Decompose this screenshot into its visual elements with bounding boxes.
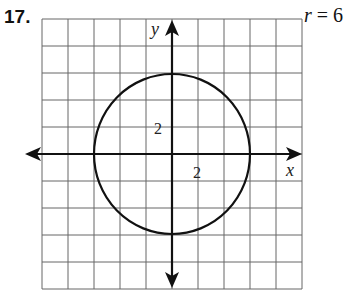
y-axis-label: y: [149, 19, 159, 39]
y-tick-label: 2: [154, 120, 162, 137]
x-tick-label: 2: [193, 164, 201, 181]
polar-graph: y x 2 2: [0, 0, 360, 291]
axes: [25, 20, 302, 288]
x-axis-label: x: [285, 160, 294, 180]
